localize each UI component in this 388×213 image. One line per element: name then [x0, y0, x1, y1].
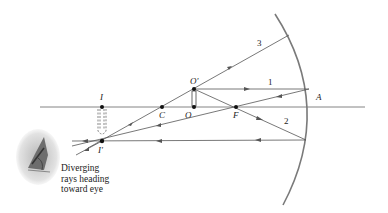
point-I-prime — [100, 139, 104, 143]
ray-1-arrow-back — [276, 94, 282, 98]
ray-diagram: I I' C O O' F A 1 2 3 — [0, 0, 388, 213]
ray-1-arrow-back2 — [156, 123, 161, 127]
object-arrow — [192, 91, 196, 106]
label-O: O — [185, 110, 192, 120]
ray-3 — [88, 35, 289, 148]
ray-label-1: 1 — [268, 77, 273, 87]
ray-2-incident — [194, 89, 306, 140]
caption-line-3: toward eye — [61, 184, 103, 194]
label-I-prime: I' — [97, 145, 104, 155]
point-C — [160, 105, 164, 109]
ray-label-2: 2 — [284, 116, 289, 126]
point-F — [234, 105, 238, 109]
point-O-prime — [192, 87, 196, 91]
label-C: C — [159, 110, 166, 120]
point-I — [100, 105, 104, 109]
ray-1-arrow — [244, 87, 250, 91]
label-O-prime: O' — [190, 76, 199, 86]
point-O — [192, 105, 196, 109]
caption-line-1: Diverging — [61, 163, 99, 173]
eye-icon — [16, 129, 60, 185]
caption-line-2: rays heading — [61, 174, 109, 184]
ray-2-arrow — [256, 116, 263, 120]
label-F: F — [232, 110, 239, 120]
label-A: A — [315, 92, 322, 102]
label-I: I — [99, 92, 104, 102]
concave-mirror — [275, 14, 307, 205]
ray-2-reflected — [72, 140, 306, 141]
ray-2-arrow-back2 — [156, 139, 162, 143]
diverging-arrow-b — [82, 139, 88, 143]
eye-caption: Divergingrays headingtoward eye — [61, 163, 109, 195]
ray-2-arrow-back — [255, 138, 261, 142]
ray-label-3: 3 — [257, 38, 262, 48]
image-arrow — [98, 109, 106, 134]
